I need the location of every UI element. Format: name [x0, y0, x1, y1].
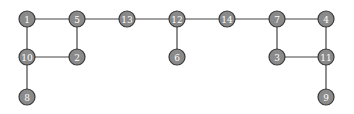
node-label: 3 [274, 53, 280, 63]
node-label: 8 [24, 93, 30, 103]
node-label: 1 [24, 15, 30, 25]
node-1: 1 [19, 11, 35, 27]
node-12: 12 [169, 11, 185, 27]
node-label: 14 [221, 15, 233, 25]
node-label: 11 [320, 53, 331, 63]
node-9: 9 [318, 89, 334, 105]
node-label: 4 [323, 15, 329, 25]
node-7: 7 [269, 11, 285, 27]
node-label: 7 [274, 15, 280, 25]
node-4: 4 [318, 11, 334, 27]
node-label: 13 [121, 15, 133, 25]
node-label: 5 [74, 15, 80, 25]
node-2: 2 [69, 49, 85, 65]
node-10: 10 [19, 49, 35, 65]
node-8: 8 [19, 89, 35, 105]
node-label: 9 [323, 93, 329, 103]
node-14: 14 [219, 11, 235, 27]
nodes-layer: 1513121474102631189 [19, 11, 334, 105]
node-label: 10 [21, 53, 33, 63]
node-label: 12 [171, 15, 182, 25]
node-label: 6 [174, 53, 180, 63]
graph-diagram: 1513121474102631189 [0, 0, 354, 114]
node-13: 13 [119, 11, 135, 27]
node-3: 3 [269, 49, 285, 65]
node-5: 5 [69, 11, 85, 27]
node-label: 2 [74, 53, 80, 63]
node-6: 6 [169, 49, 185, 65]
node-11: 11 [318, 49, 334, 65]
